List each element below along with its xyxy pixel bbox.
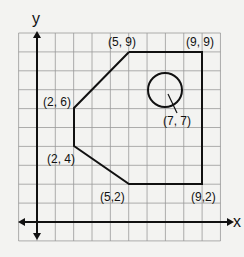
y-axis-label: y bbox=[32, 10, 40, 27]
x-axis-label: x bbox=[233, 213, 241, 230]
grid bbox=[19, 33, 221, 241]
label-7-7: (7, 7) bbox=[163, 114, 191, 128]
y-axis bbox=[33, 31, 41, 240]
x-axis bbox=[18, 218, 234, 226]
label-2-4: (2, 4) bbox=[47, 152, 75, 166]
label-9-2: (9,2) bbox=[191, 190, 216, 204]
label-5-9: (5, 9) bbox=[108, 35, 136, 49]
coordinate-diagram: x y (5, 9) (9, 9) (2, 6) (7, 7) (2, 4) (… bbox=[0, 0, 244, 257]
label-5-2: (5,2) bbox=[100, 190, 125, 204]
label-2-6: (2, 6) bbox=[43, 95, 71, 109]
label-9-9: (9, 9) bbox=[186, 35, 214, 49]
